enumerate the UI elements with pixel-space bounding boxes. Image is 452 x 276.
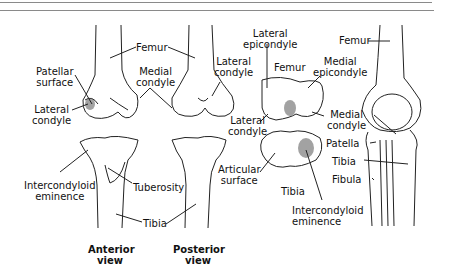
label-tibia-superior: Tibia xyxy=(281,186,305,197)
bone-illustrations xyxy=(0,0,452,276)
label-femur-inferior: Femur xyxy=(274,62,306,73)
label-lateral-epicondyle: Lateral epicondyle xyxy=(243,28,297,50)
label-fibula: Fibula xyxy=(332,174,361,185)
label-patella: Patella xyxy=(326,138,359,149)
caption-anterior-view: Anterior view xyxy=(88,244,132,266)
label-femur-lateral: Femur xyxy=(339,35,371,46)
label-lateral-condyle-inferior: Lateral condyle xyxy=(228,115,267,137)
caption-posterior-view: Posterior view xyxy=(173,244,223,266)
label-tibia-anterior: Tibia xyxy=(143,218,167,229)
label-articular-surface: Articular surface xyxy=(218,164,261,186)
label-intercondyloid-eminence-anterior: Intercondyloid eminence xyxy=(24,180,96,202)
lateral-knee-drawing xyxy=(362,25,421,226)
label-medial-epicondyle: Medial epicondyle xyxy=(313,56,367,78)
label-tibia-lateral: Tibia xyxy=(332,156,356,167)
inferior-femur-drawing xyxy=(262,77,324,120)
label-lateral-condyle-posterior: Lateral condyle xyxy=(214,56,253,78)
label-femur-anterior: Femur xyxy=(136,42,168,53)
label-intercondyloid-eminence-superior: Intercondyloid eminence xyxy=(292,205,364,227)
label-medial-condyle-superior: Medial condyle xyxy=(327,109,366,131)
label-tuberosity: Tuberosity xyxy=(133,182,184,193)
superior-tibia-drawing xyxy=(261,131,322,167)
label-lateral-condyle-anterior: Lateral condyle xyxy=(32,104,71,126)
label-patellar-surface: Patellar surface xyxy=(36,66,74,88)
label-medial-condyle-anterior: Medial condyle xyxy=(136,66,175,88)
anterior-femur-drawing xyxy=(83,25,138,118)
